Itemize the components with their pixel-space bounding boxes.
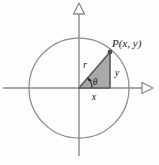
adjacent-leg-label: x <box>91 91 97 102</box>
angle-theta-label: θ <box>93 77 98 87</box>
radius-label: r <box>83 59 87 70</box>
point-p-marker <box>108 50 113 55</box>
point-p-label: P(x, y) <box>111 37 142 50</box>
unit-circle-diagram: P(x, y) r y x θ <box>0 0 159 165</box>
opposite-leg-label: y <box>114 67 120 78</box>
figure-container: P(x, y) r y x θ <box>0 0 159 165</box>
